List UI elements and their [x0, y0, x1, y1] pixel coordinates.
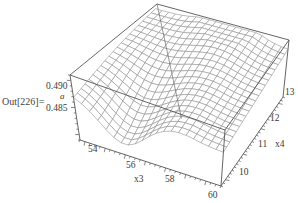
x-tick-mark	[210, 183, 211, 185]
y-tick-mark	[256, 135, 258, 136]
surface-mesh	[74, 9, 289, 153]
x-tick-mark	[84, 142, 85, 146]
y-tick-mark	[250, 145, 252, 146]
x-tick-mark	[185, 175, 186, 179]
x-tick-mark	[195, 178, 196, 180]
x-tick-mark	[99, 147, 100, 149]
y-tick-mark	[274, 110, 276, 111]
x-tick-mark	[215, 184, 216, 186]
x-tick-mark	[165, 168, 166, 172]
x-tick-54: 54	[88, 145, 98, 155]
x-tick-mark	[139, 160, 140, 162]
x-tick-mark	[109, 150, 110, 152]
x-tick-mark	[119, 153, 120, 155]
y-tick-mark	[223, 183, 225, 184]
y-tick-mark	[239, 161, 241, 162]
x-tick-mark	[155, 165, 156, 167]
y-tick-10: 10	[239, 168, 249, 178]
surface-plot[interactable]	[0, 0, 298, 203]
y-tick-mark	[261, 129, 265, 130]
y-tick-mark	[245, 151, 247, 152]
x-tick-mark	[144, 161, 145, 165]
y-tick-12: 12	[270, 114, 280, 124]
y-axis-label: x4	[275, 140, 285, 150]
y-tick-mark	[221, 186, 223, 187]
x-tick-mark	[160, 166, 161, 168]
x-tick-mark	[104, 148, 105, 152]
y-tick-mark	[263, 126, 265, 127]
y-tick-mark	[259, 132, 261, 133]
y-tick-11: 11	[258, 140, 267, 150]
x-tick-mark	[114, 152, 115, 154]
y-tick-mark	[237, 164, 239, 165]
y-tick-mark	[243, 154, 247, 155]
y-tick-mark	[232, 170, 234, 171]
x-tick-mark	[200, 179, 201, 181]
x-tick-mark	[180, 173, 181, 175]
x-tick-58: 58	[165, 175, 175, 185]
y-tick-mark	[228, 176, 230, 177]
x-tick-mark	[124, 155, 125, 159]
x-tick-mark	[170, 170, 171, 172]
y-tick-mark	[248, 148, 250, 149]
x-tick-mark	[205, 181, 206, 185]
z-axis-label: a	[60, 92, 65, 101]
y-tick-mark	[281, 100, 283, 101]
x-tick-mark	[190, 176, 191, 178]
y-tick-mark	[230, 173, 232, 174]
y-tick-mark	[241, 157, 243, 158]
x-tick-60: 60	[208, 191, 218, 201]
z-tick-0485: 0.485	[46, 104, 67, 114]
x-tick-mark	[175, 171, 176, 173]
y-tick-mark	[252, 142, 254, 143]
y-tick-mark	[265, 122, 267, 123]
y-tick-mark	[279, 103, 283, 104]
y-tick-mark	[234, 167, 236, 168]
y-tick-mark	[276, 107, 278, 108]
y-tick-13: 13	[285, 88, 295, 98]
x-tick-56: 56	[126, 161, 136, 171]
y-tick-mark	[254, 138, 256, 139]
x-axis-label: x3	[134, 175, 144, 185]
x-tick-mark	[129, 156, 130, 158]
y-tick-mark	[225, 180, 229, 181]
x-tick-mark	[150, 163, 151, 165]
